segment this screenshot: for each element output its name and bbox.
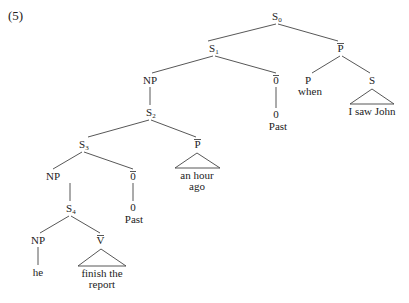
svg-text:S: S [369,74,375,86]
node-np2: NP [46,170,60,182]
node-zero1: 0 Past [269,108,287,132]
node-zero2: 0 Past [125,201,143,225]
node-vbar: V finish the report [81,234,122,290]
svg-text:NP: NP [143,74,157,86]
leaf-ago: ago [189,180,205,192]
svg-text:0: 0 [273,108,279,120]
svg-text:S0: S0 [272,10,282,24]
leaf-he: he [33,266,44,278]
example-number: (5) [8,8,23,23]
svg-text:NP: NP [46,170,60,182]
tree-nodes: S0 S1 P NP 0 P when S I saw John 0 Past [31,10,396,290]
leaf-past-2: Past [125,213,143,225]
node-pbar-top: P [337,42,344,54]
node-s2: S2 [146,106,156,120]
svg-text:S2: S2 [146,106,156,120]
syntax-tree-diagram: (5) [0,0,409,303]
svg-text:S3: S3 [79,138,89,152]
node-pbar2: P an hour ago [180,138,214,192]
node-obar1: 0 [273,74,279,86]
svg-text:S1: S1 [209,42,219,56]
node-s4: S4 [66,202,76,216]
svg-text:P: P [337,42,343,54]
node-obar2: 0 [130,170,136,182]
svg-text:0: 0 [273,74,279,86]
leaf-when: when [298,85,322,97]
node-s3: S3 [79,138,89,152]
leaf-report: report [89,278,115,290]
svg-text:S4: S4 [66,202,76,216]
node-np1: NP [143,74,157,86]
node-s-when: S I saw John [348,74,396,117]
leaf-i-saw-john: I saw John [348,105,396,117]
leaf-past-1: Past [269,120,287,132]
svg-text:0: 0 [130,201,136,213]
node-s1: S1 [209,42,219,56]
svg-text:V: V [97,234,105,246]
tree-edges [38,24,394,266]
node-s0: S0 [272,10,282,24]
svg-text:P: P [194,138,200,150]
node-p-when: P when [298,74,322,97]
svg-text:NP: NP [31,234,45,246]
svg-text:0: 0 [130,170,136,182]
